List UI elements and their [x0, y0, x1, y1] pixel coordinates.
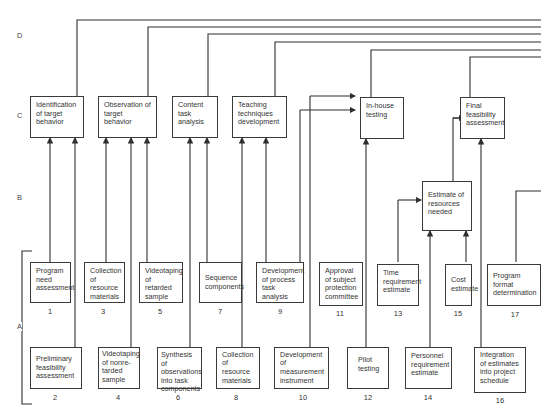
- level-a-box: Sequence components: [199, 262, 242, 303]
- step-number: 11: [330, 309, 350, 318]
- level-a-box: Program need assessment: [30, 262, 71, 303]
- box-label: Content task analysis: [178, 100, 204, 126]
- box-label: Estimate of resources needed: [428, 190, 464, 216]
- box-label: In-house testing: [366, 101, 394, 119]
- step-number: 8: [226, 393, 246, 402]
- level-c-box: Final feasibility assessment: [460, 97, 505, 139]
- step-number: 4: [108, 393, 128, 402]
- step-number: 1: [40, 307, 60, 316]
- box-label: Integration of estimates into project sc…: [480, 350, 519, 385]
- level-c-box: Observation of target behavior: [98, 96, 157, 138]
- box-label: Collection of resource materials: [90, 266, 122, 301]
- box-label: Final feasibility assessment: [466, 101, 504, 127]
- step-number: 12: [358, 393, 378, 402]
- level-a-box: Program format determination: [487, 264, 541, 306]
- step-number: 2: [45, 393, 65, 402]
- box-label: Pilot testing: [358, 355, 379, 373]
- box-label: Videotaping of retarded sample: [145, 266, 183, 301]
- level-a-box: Videotaping of nonre-tarded sample: [98, 347, 140, 389]
- step-number: 17: [505, 310, 525, 319]
- box-label: Sequence components: [205, 274, 244, 291]
- step-number: 14: [418, 393, 438, 402]
- level-a-box: Development of process task analysis: [256, 262, 304, 303]
- row-label-b: B: [17, 193, 22, 202]
- level-b-box: Estimate of resources needed: [422, 181, 472, 231]
- box-label: Development of measurement instrument: [280, 351, 324, 385]
- level-a-box: Personnel requirement estimate: [405, 347, 452, 389]
- step-number: 6: [168, 393, 188, 402]
- box-label: Development of process task analysis: [262, 266, 304, 301]
- box-label: Program format determination: [493, 271, 537, 297]
- level-c-box: Identification of target behavior: [30, 96, 84, 138]
- level-a-box: Synthesis of observations into task comp…: [157, 347, 202, 389]
- row-label-c: C: [17, 111, 22, 120]
- box-label: Videotaping of nonre-tarded sample: [102, 349, 140, 384]
- step-number: 10: [293, 393, 313, 402]
- level-a-box: Pilot testing: [347, 347, 389, 389]
- level-a-box: Collection of resource materials: [84, 262, 125, 303]
- level-a-box: Preliminary feasibility assessment: [30, 347, 82, 389]
- level-a-box: Approval of subject protection committee: [319, 262, 363, 306]
- row-label-d: D: [17, 31, 22, 40]
- box-label: Identification of target behavior: [36, 100, 76, 126]
- box-label: Cost estimate: [451, 276, 478, 293]
- box-label: Time requirement estimate: [383, 268, 421, 294]
- box-label: Preliminary feasibility assessment: [36, 355, 76, 381]
- step-number: 7: [210, 307, 230, 316]
- step-number: 5: [150, 307, 170, 316]
- step-number: 13: [388, 309, 408, 318]
- level-c-box: Teaching techniques development: [232, 96, 287, 138]
- row-label-a: A: [17, 322, 22, 331]
- level-a-box: Cost estimate: [445, 264, 472, 306]
- box-label: Teaching techniques development: [238, 100, 279, 126]
- box-label: Observation of target behavior: [104, 100, 151, 126]
- box-label: Synthesis of observations into task comp…: [161, 350, 202, 393]
- step-number: 15: [448, 309, 468, 318]
- level-c-box: Content task analysis: [172, 96, 218, 138]
- level-a-box: Development of measurement instrument: [274, 347, 329, 389]
- level-a-box: Integration of estimates into project sc…: [474, 347, 526, 393]
- level-a-box: Collection of resource materials: [216, 347, 260, 389]
- box-label: Program need assessment: [36, 266, 74, 292]
- step-number: 9: [270, 307, 290, 316]
- step-number: 3: [93, 307, 113, 316]
- box-label: Personnel requirement estimate: [411, 351, 449, 377]
- box-label: Collection of resource materials: [222, 351, 254, 385]
- level-c-box: In-house testing: [360, 97, 404, 139]
- level-a-box: Time requirement estimate: [377, 264, 419, 306]
- step-number: 16: [490, 396, 510, 405]
- level-a-box: Videotaping of retarded sample: [139, 262, 183, 303]
- box-label: Approval of subject protection committee: [325, 266, 358, 301]
